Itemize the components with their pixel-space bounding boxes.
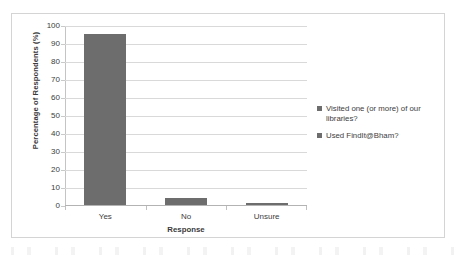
bar[interactable] [84,34,126,205]
x-axis-tick-label: No [146,212,227,221]
y-axis-tick-label: 40 [51,130,60,138]
legend-swatch-icon [317,133,322,138]
y-axis-tick-label: 70 [51,76,60,84]
y-axis-tick-label: 30 [51,148,60,156]
y-axis-tick-label: 90 [51,40,60,48]
scan-artifact-band [0,247,460,255]
plot-area [65,26,307,206]
legend-label: Visited one (or more) of our libraries? [326,104,439,124]
x-axis-tickmark [146,206,147,210]
bar-slot [226,26,307,206]
bar[interactable] [165,198,207,205]
x-axis-tick-label: Yes [65,212,146,221]
x-axis-title: Response [65,225,307,234]
chart-legend: Visited one (or more) of our libraries?U… [317,104,439,148]
y-axis-tick-label: 80 [51,58,60,66]
x-axis-tickmark [226,206,227,210]
x-axis-line [65,205,307,206]
y-axis-tick-label: 100 [47,22,60,30]
bar-slot [146,26,227,206]
x-axis-tick-label: Unsure [226,212,307,221]
chart-container: Percentage of Respondents (%) 1009080706… [11,13,445,238]
bar-slot [65,26,146,206]
bar-series [65,26,307,206]
legend-item[interactable]: Visited one (or more) of our libraries? [317,104,439,124]
y-axis-tick-label: 0 [56,202,60,210]
y-axis-tick-label: 50 [51,112,60,120]
x-axis-tick-labels: YesNoUnsure [65,212,307,221]
y-axis-tick-label: 20 [51,166,60,174]
y-axis-tick-labels: 1009080706050403020100 [34,26,60,206]
x-axis-tickmark [306,206,307,210]
legend-label: Used FindIt@Bham? [326,131,399,141]
x-axis-tickmark [65,206,66,210]
legend-swatch-icon [317,106,322,111]
y-axis-tick-label: 60 [51,94,60,102]
y-axis-tick-label: 10 [51,184,60,192]
legend-item[interactable]: Used FindIt@Bham? [317,131,439,141]
